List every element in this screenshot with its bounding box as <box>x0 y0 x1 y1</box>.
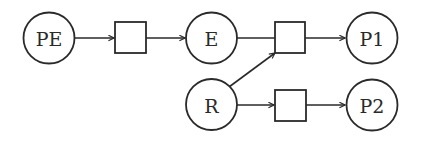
transition-t2 <box>275 22 305 53</box>
place-r: R <box>186 79 237 130</box>
place-r-label: R <box>204 95 219 117</box>
transition-t1 <box>115 22 146 53</box>
place-p1-label: P1 <box>360 28 385 50</box>
place-pe-label: PE <box>36 28 63 50</box>
place-pe: PE <box>24 13 75 64</box>
place-p1: P1 <box>347 13 398 64</box>
place-p2: P2 <box>347 80 398 131</box>
transition-t3 <box>275 90 306 121</box>
place-e-label: E <box>205 28 219 50</box>
petri-net-diagram: PE E R P1 P2 <box>0 0 421 143</box>
place-p2-label: P2 <box>360 95 385 117</box>
arc-r-to-t2 <box>229 53 275 87</box>
place-e: E <box>186 13 237 64</box>
